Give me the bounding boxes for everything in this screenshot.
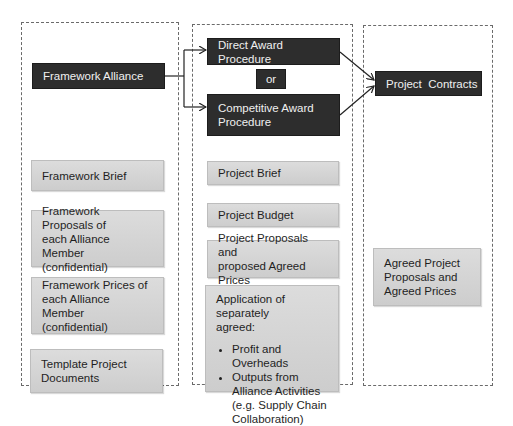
application-intro-line: agreed:: [216, 320, 255, 334]
merge-arrow: [340, 52, 374, 115]
project-proposals-line: Project Proposals and: [218, 231, 328, 259]
framework-prices-line: each Alliance Member: [42, 292, 153, 320]
application-bullet: Outputs from Alliance Activities (e.g. S…: [232, 370, 328, 426]
project-contracts-label: Project Contracts: [386, 77, 477, 91]
application-bullet: Profit and Overheads: [232, 342, 328, 370]
direct-award-box: Direct Award Procedure: [207, 38, 340, 65]
agreed-proposals-line: Proposals and: [384, 270, 458, 284]
project-contracts-box: Project Contracts: [375, 71, 482, 96]
project-budget-label: Project Budget: [218, 208, 293, 222]
framework-prices-line: Framework Prices of: [42, 278, 147, 292]
framework-brief-label: Framework Brief: [42, 169, 126, 183]
framework-proposals-line: (confidential): [42, 260, 108, 274]
framework-proposals-line: Framework Proposals of: [42, 204, 153, 232]
framework-brief-box: Framework Brief: [31, 160, 164, 191]
project-proposals-line: proposed Agreed Prices: [218, 259, 328, 287]
competitive-award-box: Competitive Award Procedure: [207, 94, 340, 136]
project-proposals-box: Project Proposals and proposed Agreed Pr…: [207, 240, 339, 278]
framework-alliance-label: Framework Alliance: [43, 69, 143, 83]
competitive-award-line: Competitive Award: [218, 101, 314, 115]
application-bullet-list: Profit and Overheads Outputs from Allian…: [216, 342, 328, 426]
project-brief-label: Project Brief: [218, 166, 281, 180]
framework-proposals-box: Framework Proposals of each Alliance Mem…: [31, 210, 164, 267]
agreed-proposals-line: Agreed Prices: [384, 284, 456, 298]
application-box: Application of separately agreed: Profit…: [205, 285, 339, 392]
template-documents-line: Documents: [41, 371, 99, 385]
framework-alliance-box: Framework Alliance: [32, 63, 165, 89]
framework-prices-box: Framework Prices of each Alliance Member…: [31, 277, 164, 334]
project-budget-box: Project Budget: [207, 203, 339, 227]
template-documents-box: Template Project Documents: [30, 349, 163, 393]
or-box: or: [256, 69, 286, 89]
agreed-proposals-line: Agreed Project: [384, 256, 460, 270]
template-documents-line: Template Project: [41, 357, 127, 371]
framework-proposals-line: each Alliance Member: [42, 232, 153, 260]
branch-arrow: [164, 50, 206, 107]
agreed-proposals-box: Agreed Project Proposals and Agreed Pric…: [373, 248, 481, 306]
project-brief-box: Project Brief: [207, 161, 339, 185]
application-intro-line: Application of separately: [216, 292, 328, 320]
competitive-award-line: Procedure: [218, 115, 271, 129]
direct-award-label: Direct Award Procedure: [218, 38, 329, 66]
or-label: or: [266, 72, 276, 86]
framework-prices-line: (confidential): [42, 320, 108, 334]
